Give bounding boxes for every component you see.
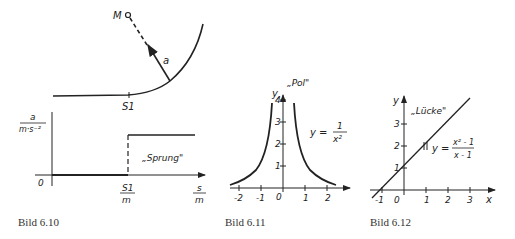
svg-text:m: m bbox=[122, 195, 131, 205]
svg-text:1: 1 bbox=[424, 195, 430, 205]
svg-text:m·s⁻²: m·s⁻² bbox=[19, 125, 42, 134]
caption-6-12: Bild 6.12 bbox=[370, 216, 411, 228]
svg-text:3: 3 bbox=[394, 119, 400, 129]
label-m: M bbox=[113, 10, 122, 21]
pol-annotation: „Pol" bbox=[287, 78, 309, 88]
svg-text:y: y bbox=[271, 88, 279, 99]
svg-text:2: 2 bbox=[445, 195, 451, 205]
svg-text:m: m bbox=[195, 195, 204, 205]
svg-text:0: 0 bbox=[394, 195, 400, 205]
svg-text:2: 2 bbox=[275, 139, 281, 149]
caption-6-10: Bild 6.10 bbox=[18, 216, 59, 228]
svg-text:1: 1 bbox=[394, 163, 400, 173]
svg-text:y =: y = bbox=[309, 127, 327, 138]
svg-text:0: 0 bbox=[38, 178, 44, 188]
figure-6-11-graph: -2 -1 0 1 2 1 2 3 4 y „Pol" y = 1 x² bbox=[230, 78, 350, 203]
svg-text:y =: y = bbox=[431, 143, 449, 154]
svg-text:2: 2 bbox=[394, 141, 400, 151]
svg-text:y: y bbox=[392, 95, 400, 106]
svg-text:-1: -1 bbox=[375, 195, 384, 205]
label-a: a bbox=[163, 55, 169, 66]
label-s1-top: S1 bbox=[122, 101, 135, 112]
svg-text:1: 1 bbox=[337, 121, 343, 131]
svg-text:-1: -1 bbox=[256, 193, 265, 203]
svg-text:-2: -2 bbox=[234, 193, 243, 203]
svg-text:2: 2 bbox=[325, 193, 331, 203]
sprung-annotation: „Sprung" bbox=[142, 153, 183, 163]
svg-text:1: 1 bbox=[275, 161, 281, 171]
svg-text:3: 3 bbox=[467, 195, 473, 205]
luecke-annotation: „Lücke" bbox=[411, 106, 446, 116]
figure-6-10-graph: a m·s⁻² 0 S1 m s m „Sprung" bbox=[19, 112, 206, 205]
svg-text:x²: x² bbox=[332, 134, 342, 144]
svg-text:3: 3 bbox=[275, 117, 281, 127]
svg-text:s: s bbox=[197, 183, 202, 193]
svg-text:x - 1: x - 1 bbox=[453, 151, 472, 160]
caption-6-11: Bild 6.11 bbox=[225, 216, 266, 228]
svg-text:1: 1 bbox=[303, 193, 309, 203]
svg-text:S1: S1 bbox=[122, 183, 133, 193]
figure-6-10-trajectory: M a S1 bbox=[53, 10, 203, 112]
point-m-icon bbox=[126, 13, 131, 18]
figures-canvas: M a S1 a m·s⁻² 0 S1 m s m „Sprung" Bild … bbox=[0, 0, 515, 239]
trajectory-curve bbox=[53, 24, 203, 96]
svg-text:x² - 1: x² - 1 bbox=[452, 138, 474, 147]
svg-text:a: a bbox=[30, 112, 36, 122]
figure-6-12-graph: -1 0 1 2 3 x 1 2 3 y „Lücke" y = x² - 1 … bbox=[370, 95, 495, 205]
svg-text:0: 0 bbox=[276, 192, 282, 202]
svg-text:x: x bbox=[485, 194, 492, 205]
